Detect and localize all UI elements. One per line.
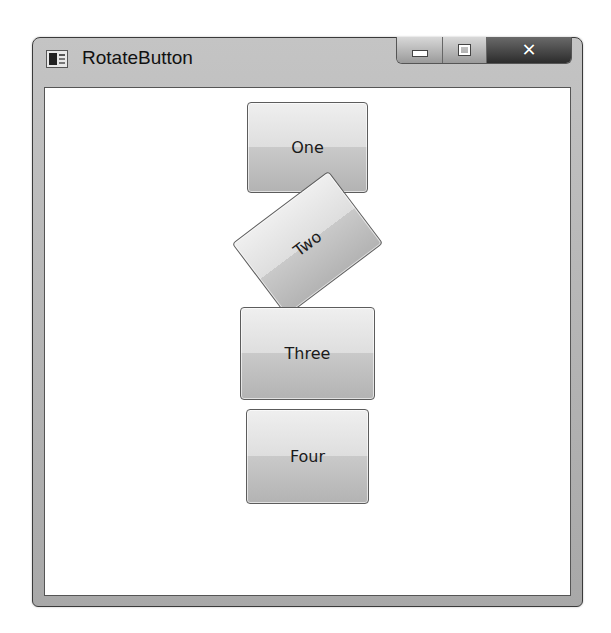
minimize-button[interactable] [397,37,443,63]
button-four[interactable]: Four [246,409,369,504]
title-bar[interactable]: RotateButton ✕ [33,38,582,88]
button-three[interactable]: Three [240,307,375,400]
close-icon: ✕ [521,41,536,59]
app-icon-dark-panel [49,53,57,65]
caption-buttons: ✕ [396,37,572,64]
minimize-icon [412,50,428,57]
close-button[interactable]: ✕ [487,37,571,63]
maximize-button[interactable] [443,37,487,63]
app-window-icon[interactable] [46,50,68,68]
button-one[interactable]: One [247,102,368,193]
app-icon-lines [59,54,65,56]
maximize-icon [459,45,470,55]
window-title: RotateButton [82,47,193,69]
